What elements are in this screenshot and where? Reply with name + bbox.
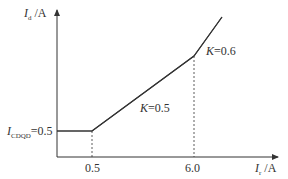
slope-label-k05: K=0.5 xyxy=(139,101,170,115)
segment-slope-0.5 xyxy=(92,56,194,131)
x-tick-6.0: 6.0 xyxy=(185,161,200,175)
y-axis-label: Id /A xyxy=(23,6,47,22)
slope-label-k06: K=0.6 xyxy=(205,44,236,58)
start-current-label: ICDQD=0.5 xyxy=(6,124,53,140)
x-axis-label: Ir /A xyxy=(254,161,277,177)
x-tick-0.5: 0.5 xyxy=(85,161,100,175)
diagram-canvas: Id /A Ir /A ICDQD=0.5 0.5 6.0 K=0.5 K=0.… xyxy=(0,0,288,179)
